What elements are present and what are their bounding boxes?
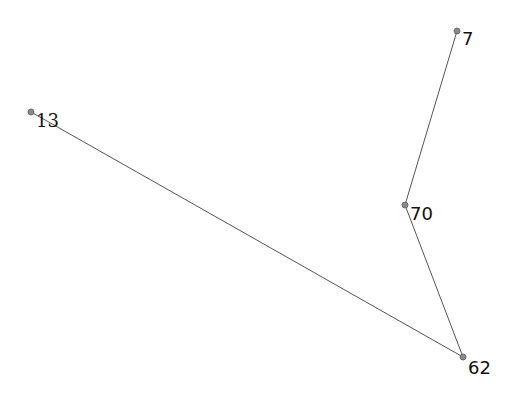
node-label: 7 [462,28,473,49]
node-label: 70 [410,203,433,224]
node-62[interactable]: 62 [460,354,491,378]
edge-13-62 [31,112,463,357]
node-dot-icon[interactable] [454,28,460,34]
node-dot-icon[interactable] [460,354,466,360]
node-dot-icon[interactable] [402,202,408,208]
node-dot-icon[interactable] [28,109,34,115]
node-70[interactable]: 70 [402,202,433,224]
edge-62-70 [405,205,463,357]
network-graph: 1377062 [0,0,522,393]
node-13[interactable]: 13 [28,109,59,131]
nodes-layer: 1377062 [28,28,491,378]
edges-layer [31,31,463,357]
node-7[interactable]: 7 [454,28,473,49]
node-label: 62 [468,357,491,378]
node-label: 13 [36,110,59,131]
edge-70-7 [405,31,457,205]
